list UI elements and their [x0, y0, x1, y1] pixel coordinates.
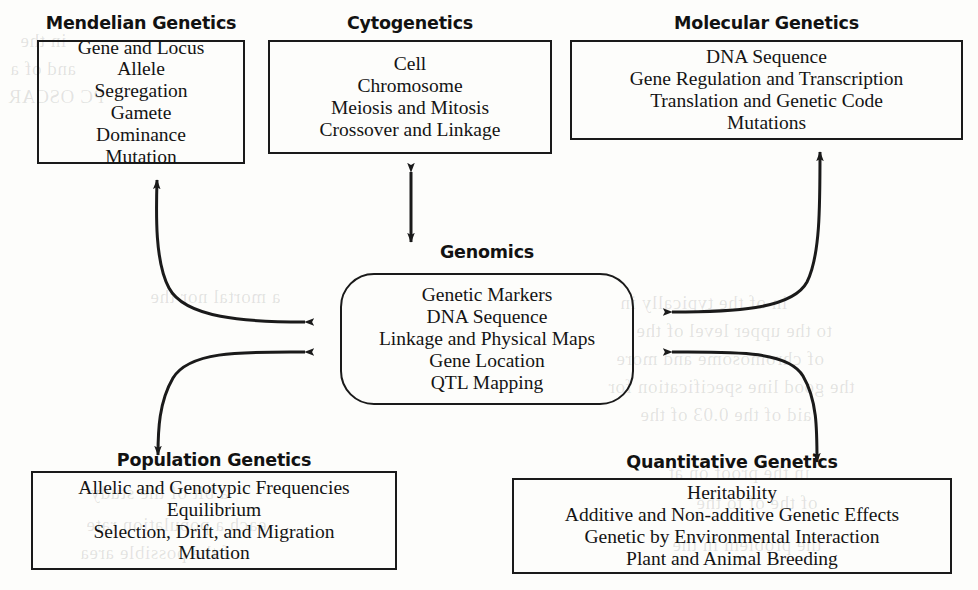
node-box-quantitative: Heritability Additive and Non-additive G… — [512, 478, 952, 574]
node-content-molecular: DNA Sequence Gene Regulation and Transcr… — [630, 46, 904, 133]
connector-molecular-genomics — [672, 152, 820, 312]
node-line: Allele — [78, 58, 205, 80]
connector-quantitative-genomics — [672, 352, 817, 462]
node-line: Cell — [320, 53, 501, 75]
node-line: Heritability — [565, 482, 899, 504]
node-line: DNA Sequence — [630, 46, 904, 68]
node-box-cytogenetics: Cell Chromosome Meiosis and Mitosis Cros… — [268, 40, 552, 154]
ghost-text: to the upper level of the — [636, 320, 832, 342]
node-line: Gamete — [78, 102, 205, 124]
node-line: Linkage and Physical Maps — [379, 328, 595, 350]
node-line: Mutation — [78, 542, 349, 564]
node-line: Segregation — [78, 80, 205, 102]
node-line: Genetic Markers — [379, 284, 595, 306]
ghost-text: a mortal nor the — [150, 286, 280, 308]
node-line: Genetic by Environmental Interaction — [565, 526, 899, 548]
ghost-text: the good line specification for — [608, 376, 855, 398]
node-line: Equilibrium — [78, 499, 349, 521]
node-title-quantitative: Quantitative Genetics — [512, 452, 952, 472]
diagram-canvas: in the and of a PC OSCAR a mortal nor th… — [0, 0, 978, 590]
ghost-text: in of the typically in — [620, 292, 787, 314]
node-line: Mutation — [78, 146, 205, 168]
node-content-mendelian: Gene and Locus Allele Segregation Gamete… — [78, 37, 205, 168]
node-line: Crossover and Linkage — [320, 119, 501, 141]
node-line: Selection, Drift, and Migration — [78, 521, 349, 543]
ghost-text: aid of the 0.03 of the — [640, 404, 812, 426]
node-line: Allelic and Genotypic Frequencies — [78, 477, 349, 499]
node-content-cytogenetics: Cell Chromosome Meiosis and Mitosis Cros… — [320, 53, 501, 140]
node-content-population: Allelic and Genotypic Frequencies Equili… — [78, 477, 349, 564]
node-line: Mutations — [630, 112, 904, 134]
node-box-mendelian: Gene and Locus Allele Segregation Gamete… — [37, 40, 245, 164]
node-line: Gene Location — [379, 350, 595, 372]
node-line: Meiosis and Mitosis — [320, 97, 501, 119]
node-line: Additive and Non-additive Genetic Effect… — [565, 504, 899, 526]
node-title-molecular: Molecular Genetics — [570, 13, 963, 33]
node-line: QTL Mapping — [379, 372, 595, 394]
ghost-text: of chromosome and more — [616, 348, 824, 370]
connector-population-genomics — [158, 352, 305, 455]
node-line: Gene and Locus — [78, 37, 205, 59]
node-title-cytogenetics: Cytogenetics — [268, 13, 552, 33]
node-line: Dominance — [78, 124, 205, 146]
node-line: Gene Regulation and Transcription — [630, 68, 904, 90]
node-line: DNA Sequence — [379, 306, 595, 328]
node-line: Plant and Animal Breeding — [565, 548, 899, 570]
connector-mendelian-genomics — [156, 180, 305, 322]
node-title-mendelian: Mendelian Genetics — [37, 13, 245, 33]
node-box-molecular: DNA Sequence Gene Regulation and Transcr… — [570, 40, 963, 140]
node-box-population: Allelic and Genotypic Frequencies Equili… — [31, 471, 397, 570]
node-title-population: Population Genetics — [31, 450, 397, 470]
node-box-genomics: Genetic Markers DNA Sequence Linkage and… — [340, 273, 634, 405]
node-line: Chromosome — [320, 75, 501, 97]
node-line: Translation and Genetic Code — [630, 90, 904, 112]
node-content-genomics: Genetic Markers DNA Sequence Linkage and… — [379, 284, 595, 393]
node-content-quantitative: Heritability Additive and Non-additive G… — [565, 482, 899, 569]
node-title-genomics: Genomics — [340, 242, 634, 262]
